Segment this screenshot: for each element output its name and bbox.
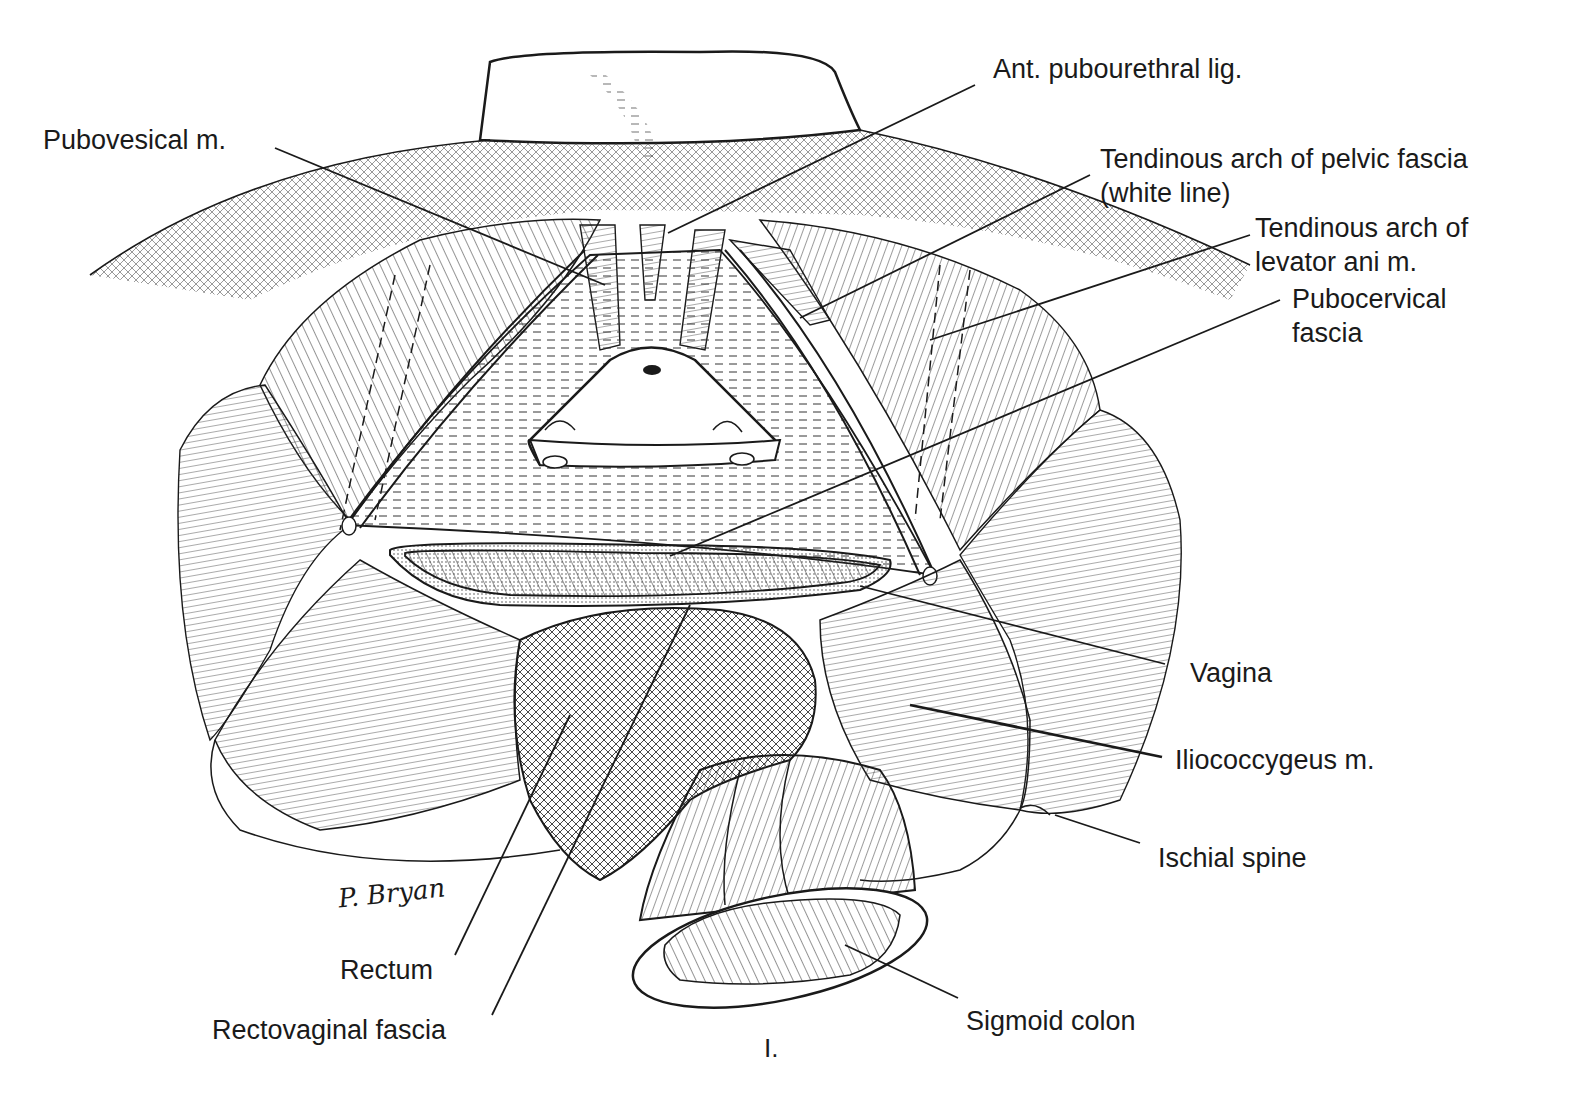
label-text: Ant. pubourethral lig. [993, 54, 1242, 84]
label-line-1: Tendinous arch of pelvic fascia [1100, 142, 1468, 176]
label-ischial-spine: Ischial spine [1158, 841, 1307, 875]
label-text: Vagina [1190, 658, 1272, 688]
vaginal-cuff [390, 543, 891, 606]
label-pubovesical-m: Pubovesical m. [43, 123, 226, 157]
label-line-2: levator ani m. [1255, 245, 1468, 279]
label-line-1: Pubocervical [1292, 282, 1447, 316]
leader-ischial-spine [1055, 815, 1140, 843]
label-text: Pubovesical m. [43, 125, 226, 155]
label-text: Ischial spine [1158, 843, 1307, 873]
label-text: Rectovaginal fascia [212, 1015, 446, 1045]
label-sigmoid-colon: Sigmoid colon [966, 1004, 1136, 1038]
label-line-2: (white line) [1100, 176, 1468, 210]
label-line-1: Tendinous arch of [1255, 211, 1468, 245]
label-text: Rectum [340, 955, 433, 985]
label-pubocervical-fascia: Pubocervical fascia [1292, 282, 1447, 350]
label-line-2: fascia [1292, 316, 1447, 350]
label-rectovaginal-fascia: Rectovaginal fascia [212, 1013, 446, 1047]
label-tendinous-arch-levator-ani: Tendinous arch of levator ani m. [1255, 211, 1468, 279]
label-ant-pubourethral-lig: Ant. pubourethral lig. [993, 52, 1242, 86]
label-text: Iliococcygeus m. [1175, 745, 1375, 775]
label-rectum: Rectum [340, 953, 433, 987]
plate-number: I. [764, 1033, 778, 1064]
label-text: Sigmoid colon [966, 1006, 1136, 1036]
label-tendinous-arch-pelvic-fascia: Tendinous arch of pelvic fascia (white l… [1100, 142, 1468, 210]
label-vagina: Vagina [1190, 656, 1272, 690]
label-iliococcygeus-m: Iliococcygeus m. [1175, 743, 1375, 777]
